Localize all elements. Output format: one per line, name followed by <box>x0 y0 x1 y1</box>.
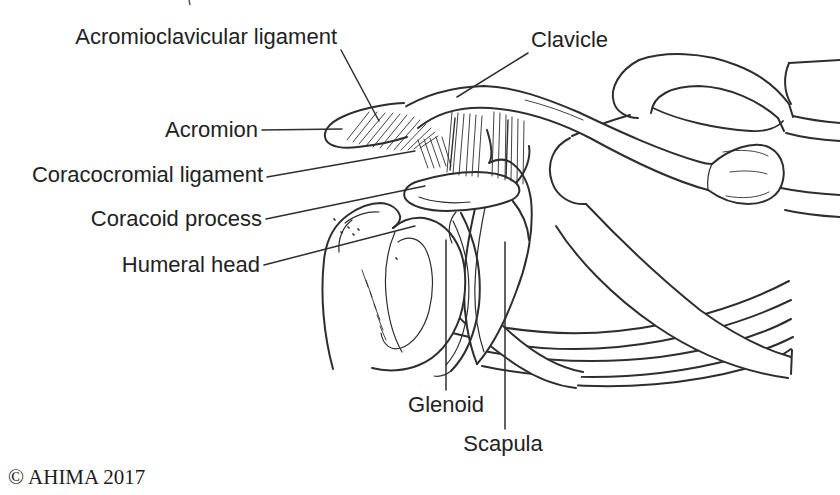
leader-coracocromial-ligament <box>267 151 415 177</box>
shoulder-anatomy-illustration: Acromioclavicular ligament Clavicle Acro… <box>0 0 840 495</box>
label-clavicle: Clavicle <box>531 27 608 52</box>
humerus-bone <box>322 203 465 370</box>
label-coracocromial-ligament: Coracocromial ligament <box>32 162 263 187</box>
crop-artifact <box>189 0 190 5</box>
label-scapula: Scapula <box>463 431 543 456</box>
label-glenoid: Glenoid <box>408 392 484 417</box>
copyright-notice: © AHIMA 2017 <box>8 465 145 489</box>
label-humeral-head: Humeral head <box>122 252 260 277</box>
leader-acromion <box>262 129 342 130</box>
leader-coracoid-process <box>266 186 425 219</box>
label-acromion: Acromion <box>165 117 258 142</box>
label-acromioclavicular-ligament: Acromioclavicular ligament <box>75 24 337 49</box>
acromion-bone <box>325 103 410 148</box>
anatomy-figure-page: Acromioclavicular ligament Clavicle Acro… <box>0 0 840 495</box>
label-coracoid-process: Coracoid process <box>91 206 262 231</box>
